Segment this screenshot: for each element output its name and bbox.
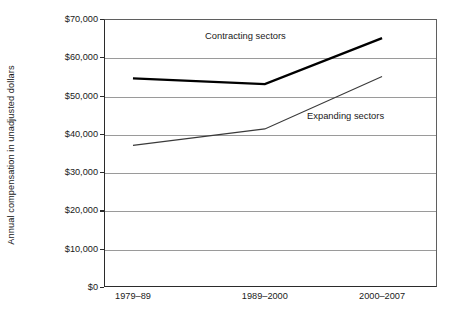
x-axis-tick-labels: 1979–891989–20002000–2007	[104, 290, 437, 308]
y-axis-tick-label: $30,000	[44, 167, 98, 177]
series-line	[133, 38, 382, 84]
y-axis-tick-label: $60,000	[44, 52, 98, 62]
y-axis-tick-label: $70,000	[44, 14, 98, 24]
x-axis-tick-label: 2000–2007	[359, 290, 405, 302]
series-layer	[104, 19, 437, 287]
y-axis-tick-label: $20,000	[44, 205, 98, 215]
chart-figure: Annual compensation in unadjusted dollar…	[0, 0, 449, 310]
y-axis-title: Annual compensation in unadjusted dollar…	[0, 0, 22, 310]
x-axis-tick-label: 1989–2000	[242, 290, 288, 302]
y-axis-tick-label: $0	[44, 282, 98, 292]
y-axis-tick-labels: $70,000$60,000$50,000$40,000$30,000$20,0…	[40, 0, 98, 310]
annotation-contracting-sectors: Contracting sectors	[205, 30, 286, 42]
y-axis-tick-label: $10,000	[44, 244, 98, 254]
y-axis-tick-label: $40,000	[44, 129, 98, 139]
y-axis-tick-mark	[100, 287, 104, 288]
annotation-expanding-sectors: Expanding sectors	[307, 110, 384, 122]
y-axis-tick-label: $50,000	[44, 91, 98, 101]
x-axis-tick-label: 1979–89	[115, 290, 151, 302]
